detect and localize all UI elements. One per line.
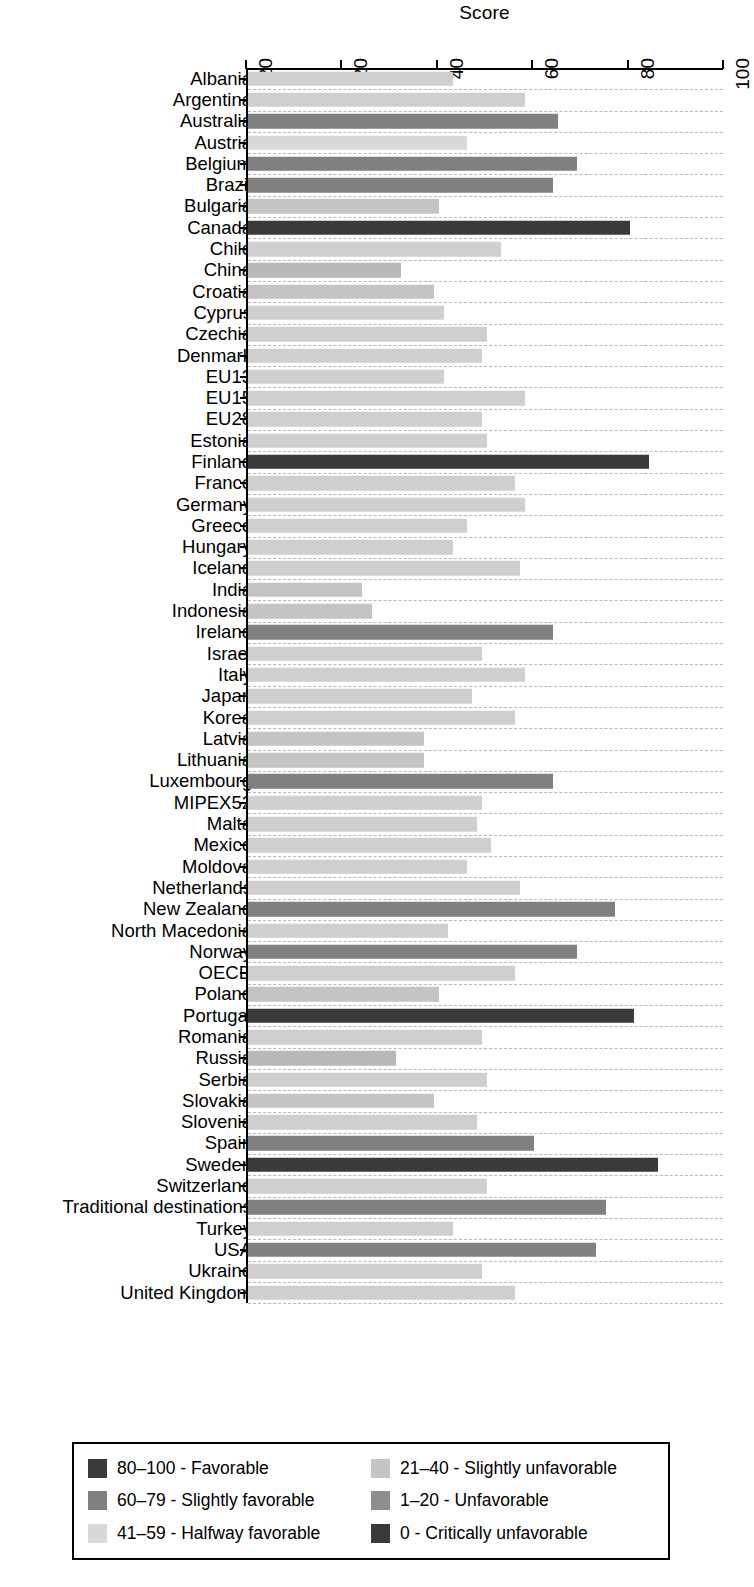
chart-row: Cyprus <box>0 302 745 323</box>
category-label: Switzerland <box>156 1177 252 1196</box>
bar <box>248 923 448 938</box>
bar <box>248 1051 396 1066</box>
bar <box>248 966 515 981</box>
chart-row: Japan <box>0 686 745 707</box>
chart-row: Traditional destinations <box>0 1197 745 1218</box>
bar <box>248 732 424 747</box>
chart-row: Mexico <box>0 835 745 856</box>
bar <box>248 412 482 427</box>
bar <box>248 1264 482 1279</box>
chart-row: Chile <box>0 238 745 259</box>
category-tick-mark <box>240 440 247 442</box>
legend-swatch-icon <box>88 1459 107 1478</box>
category-label: Netherlands <box>152 879 252 898</box>
chart-row: Belgium <box>0 153 745 174</box>
legend-label: 80–100 - Favorable <box>117 1460 269 1478</box>
category-tick-mark <box>240 802 247 804</box>
chart-row: Denmark <box>0 345 745 366</box>
category-tick-mark <box>240 397 247 399</box>
category-tick-mark <box>240 227 247 229</box>
bar <box>248 1115 477 1130</box>
category-tick-mark <box>240 610 247 612</box>
legend-label: 21–40 - Slightly unfavorable <box>400 1460 617 1478</box>
bar <box>248 348 482 363</box>
bar <box>248 774 553 789</box>
chart-row: EU13 <box>0 366 745 387</box>
bar <box>248 646 482 661</box>
chart-row: Canada <box>0 217 745 238</box>
category-tick-mark <box>240 674 247 676</box>
chart-row: Switzerland <box>0 1175 745 1196</box>
category-tick-mark <box>240 525 247 527</box>
bar <box>248 519 467 534</box>
legend-item: 80–100 - Favorable <box>88 1452 371 1485</box>
category-tick-mark <box>240 1079 247 1081</box>
chart-row: Croatia <box>0 281 745 302</box>
chart-row: China <box>0 260 745 281</box>
chart-row: OECD <box>0 962 745 983</box>
category-tick-mark <box>240 930 247 932</box>
chart-row: Serbia <box>0 1069 745 1090</box>
chart-row: Israel <box>0 643 745 664</box>
category-tick-mark <box>240 631 247 633</box>
chart-axis-title: Score <box>246 2 723 24</box>
category-tick-mark <box>240 1270 247 1272</box>
category-tick-mark <box>240 205 247 207</box>
chart-row: USA <box>0 1239 745 1260</box>
bar <box>248 1094 434 1109</box>
category-label: Luxembourg <box>149 772 252 791</box>
bar <box>248 1008 634 1023</box>
bar <box>248 881 520 896</box>
bar <box>248 178 553 193</box>
chart-row: New Zealand <box>0 899 745 920</box>
bar <box>248 391 525 406</box>
bar <box>248 668 525 683</box>
chart-row: Albania <box>0 68 745 89</box>
category-tick-mark <box>240 993 247 995</box>
category-tick-mark <box>240 1057 247 1059</box>
bar <box>248 157 577 172</box>
legend-grid: 80–100 - Favorable21–40 - Slightly unfav… <box>74 1444 668 1558</box>
bar <box>248 902 615 917</box>
category-tick-mark <box>240 99 247 101</box>
legend: 80–100 - Favorable21–40 - Slightly unfav… <box>72 1442 670 1560</box>
bar <box>248 689 472 704</box>
legend-item: 1–20 - Unfavorable <box>371 1485 654 1518</box>
chart-row: Sweden <box>0 1154 745 1175</box>
bar <box>248 817 477 832</box>
category-tick-mark <box>240 908 247 910</box>
category-tick-mark <box>240 1228 247 1230</box>
bar <box>248 433 487 448</box>
legend-label: 0 - Critically unfavorable <box>400 1525 588 1543</box>
bar <box>248 220 630 235</box>
bar <box>248 540 453 555</box>
chart-row: Lithuania <box>0 750 745 771</box>
bar <box>248 1285 515 1300</box>
chart-row: Slovenia <box>0 1112 745 1133</box>
bar <box>248 604 372 619</box>
chart-row: Russia <box>0 1048 745 1069</box>
bar <box>248 71 453 86</box>
category-tick-mark <box>240 1015 247 1017</box>
category-tick-mark <box>240 1036 247 1038</box>
chart-row: France <box>0 473 745 494</box>
category-tick-mark <box>240 1206 247 1208</box>
chart-row: Poland <box>0 984 745 1005</box>
category-tick-mark <box>240 248 247 250</box>
bar <box>248 561 520 576</box>
legend-swatch-icon <box>371 1491 390 1510</box>
chart-row: Estonia <box>0 430 745 451</box>
category-label: New Zealand <box>143 900 252 919</box>
bar <box>248 284 434 299</box>
category-tick-mark <box>240 376 247 378</box>
chart-row: Romania <box>0 1026 745 1047</box>
chart-row: Germany <box>0 494 745 515</box>
legend-label: 1–20 - Unfavorable <box>400 1492 549 1510</box>
chart-row: Hungary <box>0 537 745 558</box>
chart-row: Portugal <box>0 1005 745 1026</box>
bar <box>248 263 401 278</box>
category-tick-mark <box>240 1249 247 1251</box>
category-tick-mark <box>240 504 247 506</box>
bar <box>248 795 482 810</box>
chart-row: Greece <box>0 515 745 536</box>
